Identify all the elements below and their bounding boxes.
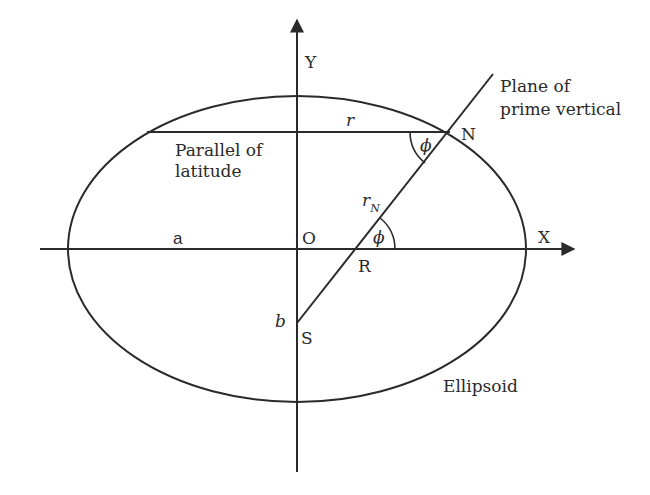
angle-phi-r-label: ϕ bbox=[373, 227, 385, 247]
x-axis-label: X bbox=[538, 227, 551, 247]
semi-minor-label: b bbox=[275, 311, 286, 331]
plane-of-prime-vertical-label-line2: prime vertical bbox=[500, 99, 621, 119]
normal-radius-subscript: N bbox=[369, 202, 380, 215]
semi-major-label: a bbox=[173, 229, 183, 248]
ellipsoid-label: Ellipsoid bbox=[443, 376, 518, 396]
parallel-of-latitude-label-line2: latitude bbox=[175, 161, 242, 181]
plane-of-prime-vertical-label-line1: Plane of bbox=[500, 76, 572, 96]
point-n-label: N bbox=[461, 124, 476, 144]
parallel-of-latitude-label-line1: Parallel of bbox=[175, 140, 264, 160]
point-r-label: R bbox=[358, 256, 372, 276]
point-s-label: S bbox=[301, 328, 313, 348]
angle-phi-n-label: ϕ bbox=[420, 135, 432, 155]
parallel-radius-label: r bbox=[346, 110, 355, 130]
origin-label: O bbox=[302, 228, 316, 248]
y-axis-label: Y bbox=[304, 52, 317, 72]
ellipsoid-diagram: Y X O a b r N R S rN ϕ ϕ Parallel of lat… bbox=[0, 0, 650, 495]
normal-radius-label: rN bbox=[362, 190, 380, 215]
